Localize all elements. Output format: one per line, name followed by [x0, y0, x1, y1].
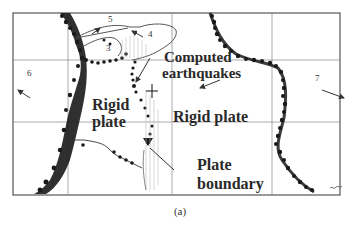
label-rigid-plate-right: Rigid plate	[173, 109, 248, 125]
label-plate: Plate	[197, 157, 232, 173]
region-number-6: 6	[27, 69, 32, 78]
region-number-7: 7	[315, 74, 320, 83]
label-rigid-left: Rigid	[92, 97, 129, 113]
label-plate-left: plate	[92, 114, 126, 130]
plate-tectonics-figure: 5 4 3 6 7 Computed earthquakes Rigid pla…	[0, 0, 360, 232]
left-plate-boundary-earthquakes	[34, 13, 87, 194]
label-computed: Computed	[164, 50, 232, 65]
label-boundary: boundary	[197, 176, 264, 192]
region-number-5: 5	[108, 15, 113, 24]
triangle-marker	[143, 138, 153, 146]
region-number-3: 3	[106, 44, 111, 53]
lower-boundary	[66, 140, 142, 168]
label-earthquakes: earthquakes	[162, 66, 241, 81]
figure-caption: (a)	[0, 205, 360, 217]
plus-marker	[146, 84, 158, 98]
region-number-4: 4	[148, 30, 153, 39]
